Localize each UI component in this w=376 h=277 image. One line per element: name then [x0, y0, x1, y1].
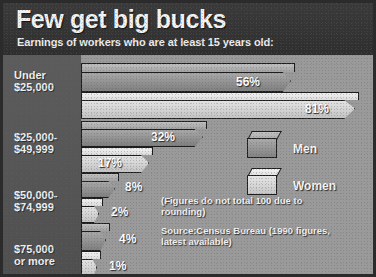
bar-value-25000-49999-men: 32% [151, 130, 175, 144]
bar-top-face [81, 173, 119, 181]
bar-value-75000-or-more-men: 4% [119, 232, 136, 246]
swatch-front-face [247, 175, 277, 195]
bar-top-face [81, 92, 359, 100]
swatch-front-face [247, 138, 277, 158]
legend-swatch-women-icon [247, 168, 281, 190]
bar-value-under-25000-men: 56% [236, 75, 260, 89]
bar-value-50000-74999-men: 8% [125, 180, 142, 194]
bar-value-under-25000-women: 81% [305, 102, 329, 116]
bar-top-face [81, 121, 207, 129]
bar-front-face [81, 181, 115, 198]
legend-label-women: Women [293, 179, 336, 193]
note-source: Source:Census Bureau (1990 figures, late… [161, 225, 366, 247]
chart-plot-area: 56% 81% 32% 17% 8% 2 [3, 55, 373, 274]
legend: Men Women [247, 131, 367, 203]
infographic-root: Few get big bucks Earnings of workers wh… [0, 0, 376, 277]
bar-front-face [81, 259, 97, 277]
bar-front-face [81, 231, 106, 251]
bar-top-face [81, 251, 101, 259]
bar-top-face [81, 63, 295, 72]
legend-label-men: Men [293, 142, 317, 156]
note-rounding: (Figures do not total 100 due to roundin… [161, 195, 361, 217]
header-band: Few get big bucks Earnings of workers wh… [3, 3, 373, 55]
bar-top-face [81, 223, 110, 231]
bar-value-50000-74999-women: 2% [111, 205, 128, 219]
bar-front-face [81, 129, 203, 147]
bar-value-75000-or-more-women: 1% [109, 259, 126, 273]
bar-front-face [81, 206, 99, 223]
bar-top-face [81, 198, 103, 206]
page-title: Few get big bucks [16, 5, 226, 34]
page-subtitle: Earnings of workers who are at least 15 … [17, 36, 274, 48]
bar-top-face [81, 147, 153, 155]
bar-value-25000-49999-women: 17% [98, 156, 122, 170]
legend-swatch-men-icon [247, 131, 281, 153]
